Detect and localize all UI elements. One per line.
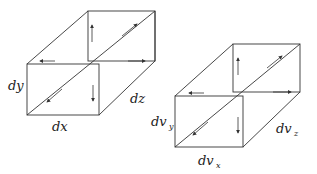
right-box-back-face bbox=[233, 44, 300, 92]
diagram-canvas: dy dx dz dv y dv x dv z bbox=[0, 0, 317, 174]
label-dvz-main: dv bbox=[276, 121, 292, 136]
label-dvy-main: dv bbox=[151, 114, 167, 129]
label-dvy-sub: y bbox=[168, 122, 174, 131]
left-box-edge-top-left bbox=[27, 11, 88, 64]
diagonal-up-arrow-icon bbox=[122, 24, 137, 36]
left-box-edge-bottom-right bbox=[99, 61, 155, 115]
right-box: dv y dv x dv z bbox=[151, 44, 300, 170]
diagonal-up-arrow-icon bbox=[267, 56, 282, 68]
diagonal-down-arrow-icon bbox=[47, 89, 62, 102]
label-dz: dz bbox=[130, 91, 145, 106]
label-dvx: dv x bbox=[198, 153, 221, 170]
label-dy: dy bbox=[8, 78, 24, 93]
label-dvx-sub: x bbox=[216, 161, 221, 170]
label-dvz-sub: z bbox=[293, 129, 299, 138]
label-dvy: dv y bbox=[151, 114, 174, 131]
left-box-back-face bbox=[88, 11, 155, 61]
right-box-edge-top-left bbox=[175, 44, 233, 96]
left-box: dy dx dz bbox=[8, 11, 155, 134]
right-box-front-face bbox=[175, 96, 243, 147]
label-dx: dx bbox=[52, 119, 68, 134]
diagonal-down-arrow-icon bbox=[193, 122, 208, 135]
left-box-front-face bbox=[27, 64, 99, 115]
right-box-edge-bottom-right bbox=[243, 92, 300, 147]
label-dvz: dv z bbox=[276, 121, 299, 138]
label-dvx-main: dv bbox=[198, 153, 214, 168]
